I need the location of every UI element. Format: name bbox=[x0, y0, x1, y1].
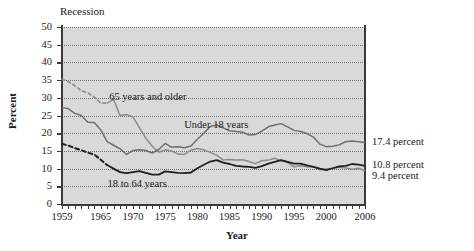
series-line-1 bbox=[62, 107, 365, 154]
x-axis-title: Year bbox=[0, 229, 474, 241]
end-value-under-18: 17.4 percent bbox=[372, 136, 424, 147]
end-value-65-and-older: 9.4 percent bbox=[372, 170, 419, 181]
series-line-0 bbox=[107, 100, 365, 171]
series-label-18-to-64: 18 to 64 years bbox=[108, 178, 167, 189]
series-line-2 bbox=[107, 160, 365, 175]
y-axis-title: Percent bbox=[6, 81, 18, 141]
series-line-dashed-0 bbox=[62, 79, 107, 103]
end-value-18-to-64: 10.8 percent bbox=[372, 159, 424, 170]
series-label-under-18: Under 18 years bbox=[184, 119, 248, 130]
series-label-65-and-older: 65 years and older bbox=[109, 91, 186, 102]
poverty-rate-chart: Recession 05101520253035404550 195919651… bbox=[0, 0, 474, 251]
series-line-dashed-2 bbox=[62, 144, 107, 165]
